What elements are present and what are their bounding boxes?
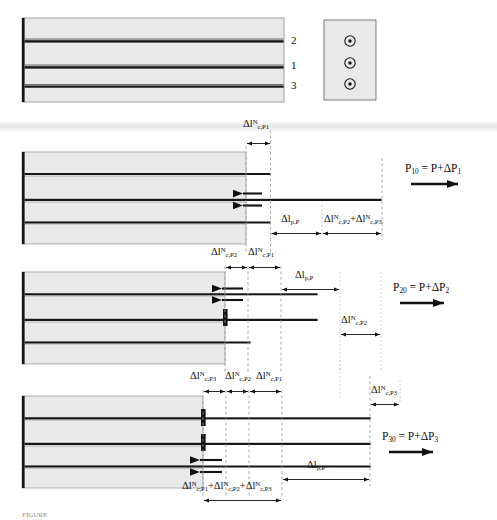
dim-label-p2-cP1: ΔlNc,P1 (248, 247, 274, 259)
delta-l-symbol: Δl (307, 459, 317, 470)
delta-l-symbol: Δl (281, 213, 291, 224)
sub-cP1: c,P1 (258, 123, 269, 130)
delta-l-symbol: Δl (371, 384, 381, 395)
force-rhs-sub-1: 1 (458, 167, 462, 176)
dim-label-p2-right-cP2: ΔlNc,P2 (341, 315, 367, 327)
sub-pP: p,P (317, 464, 325, 471)
force-label-P10: P10 = P+ΔP1 (405, 163, 461, 175)
force-label-P30: P30 = P+ΔP3 (382, 431, 438, 443)
sub-cP2: c,P2 (339, 218, 350, 225)
delta-l-symbol: Δl (248, 246, 258, 257)
dim-label-p3-lp: Δlp,P (307, 460, 325, 472)
dim-label-p3-sum: ΔlNc,P1+ΔlNc,P2+ΔlNc,P3 (182, 481, 272, 493)
sub-pP: p,P (291, 218, 299, 225)
force-rhs-P: P+ (419, 281, 432, 293)
sub-pP: p,P (305, 274, 313, 281)
delta-l-symbol: Δl (225, 370, 235, 381)
equals-sign: = (398, 430, 405, 442)
figure-canvas: 2 1 3 ΔlNc,P1 Δlp,P ΔlNc,P2+ΔlNc,P3 P10 … (0, 0, 497, 520)
equals-sign: = (421, 162, 428, 174)
force-sub-30: 30 (388, 435, 395, 444)
sub-cP1: c,P1 (271, 375, 282, 382)
panel-2-body (22, 266, 444, 372)
equals-sign: = (409, 281, 416, 293)
dim-label-p2-cP2: ΔlNc,P2 (211, 247, 237, 259)
force-label-P20: P20 = P+ΔP2 (393, 282, 449, 294)
delta-l-symbol: Δl (324, 213, 334, 224)
force-rhs-deltaP: ΔP (444, 162, 458, 174)
sub-cP2: c,P2 (228, 485, 239, 492)
dim-label-p3-cP2: ΔlNc,P2 (225, 371, 251, 383)
fiber-label-1: 1 (291, 60, 297, 71)
delta-l-symbol: Δl (256, 370, 266, 381)
delta-l-symbol: Δl (295, 269, 305, 280)
force-rhs-sub-3: 3 (435, 435, 439, 444)
dim-label-p3-cP1: ΔlNc,P1 (256, 371, 282, 383)
force-sub-20: 20 (399, 286, 406, 295)
sub-cP3: c,P3 (205, 375, 216, 382)
dim-label-p1-top: ΔlNc,P1 (243, 119, 269, 131)
sub-cP3: c,P3 (370, 218, 381, 225)
delta-l-symbol: Δl (243, 118, 253, 129)
delta-l-symbol: Δl (190, 370, 200, 381)
delta-l-symbol-3: Δl (246, 480, 256, 491)
delta-l-symbol-1: Δl (182, 480, 192, 491)
delta-l-symbol: Δl (211, 246, 221, 257)
force-rhs-sub-2: 2 (446, 286, 450, 295)
dim-label-p3-cP3: ΔlNc,P3 (190, 371, 216, 383)
force-rhs-P: P+ (408, 430, 421, 442)
force-rhs-deltaP: ΔP (432, 281, 446, 293)
fiber-label-3: 3 (291, 80, 297, 91)
sub-cP3: c,P3 (386, 389, 397, 396)
force-rhs-P: P+ (431, 162, 444, 174)
fiber-label-2: 2 (291, 35, 297, 46)
delta-l-symbol: Δl (341, 314, 351, 325)
panel-1-body (22, 130, 458, 252)
dim-label-p1-lp: Δlp,P (281, 214, 299, 226)
sub-cP1: c,P1 (263, 251, 274, 258)
sub-cP2: c,P2 (240, 375, 251, 382)
dim-label-p3-right-cP3: ΔlNc,P3 (371, 385, 397, 397)
sub-cP2: c,P2 (356, 319, 367, 326)
force-rhs-deltaP: ΔP (421, 430, 435, 442)
cross-section-inset-shape (324, 20, 376, 100)
figure-caption: FIGURE (22, 512, 47, 519)
dim-label-p2-lp: Δlp,P (295, 270, 313, 282)
dim-label-p1-sum23: ΔlNc,P2+ΔlNc,P3 (324, 214, 382, 226)
force-sub-10: 10 (411, 167, 418, 176)
sub-cP1: c,P1 (197, 485, 208, 492)
sub-cP3: c,P3 (260, 485, 271, 492)
panel-0-specimen (22, 18, 284, 102)
sub-cP2: c,P2 (226, 251, 237, 258)
